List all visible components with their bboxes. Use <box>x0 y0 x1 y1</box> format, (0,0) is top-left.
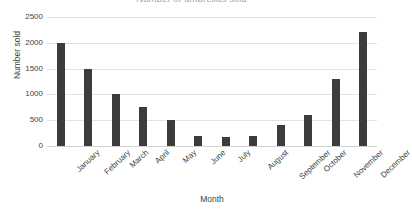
y-tick-label: 2500 <box>0 13 43 21</box>
bar-july <box>222 137 230 146</box>
y-axis-tick-labels: 05001000150020002500 <box>0 17 43 146</box>
bar-august <box>249 136 257 146</box>
bar-november <box>332 79 340 146</box>
plot-area <box>47 17 377 146</box>
y-tick-label: 1500 <box>0 65 43 73</box>
bar-december <box>359 32 367 146</box>
gridline <box>47 146 377 147</box>
bar-march <box>112 94 120 146</box>
bar-may <box>167 120 175 146</box>
bar-june <box>194 136 202 146</box>
y-tick-label: 1000 <box>0 90 43 98</box>
x-tick-label: April <box>154 148 172 166</box>
y-tick-label: 500 <box>0 116 43 124</box>
x-axis-title: Month <box>47 194 377 204</box>
x-tick-label: May <box>181 148 198 165</box>
bar-january <box>57 43 65 146</box>
bar-september <box>277 125 285 146</box>
x-tick-label: January <box>74 148 101 174</box>
bar-april <box>139 107 147 146</box>
x-axis-tick-labels: JanuaryFebruaryMarchAprilMayJuneJulyAugu… <box>47 148 377 192</box>
bars-series <box>47 17 377 146</box>
chart-title: Number of umbrellas sold <box>0 0 383 4</box>
x-tick-label: August <box>266 148 290 172</box>
y-tick-label: 2000 <box>0 39 43 47</box>
bar-october <box>304 115 312 146</box>
x-tick-label: July <box>236 148 253 164</box>
y-tick-label: 0 <box>0 142 43 150</box>
x-tick-label: June <box>209 148 228 166</box>
bar-february <box>84 69 92 146</box>
x-tick-label: March <box>128 148 150 170</box>
